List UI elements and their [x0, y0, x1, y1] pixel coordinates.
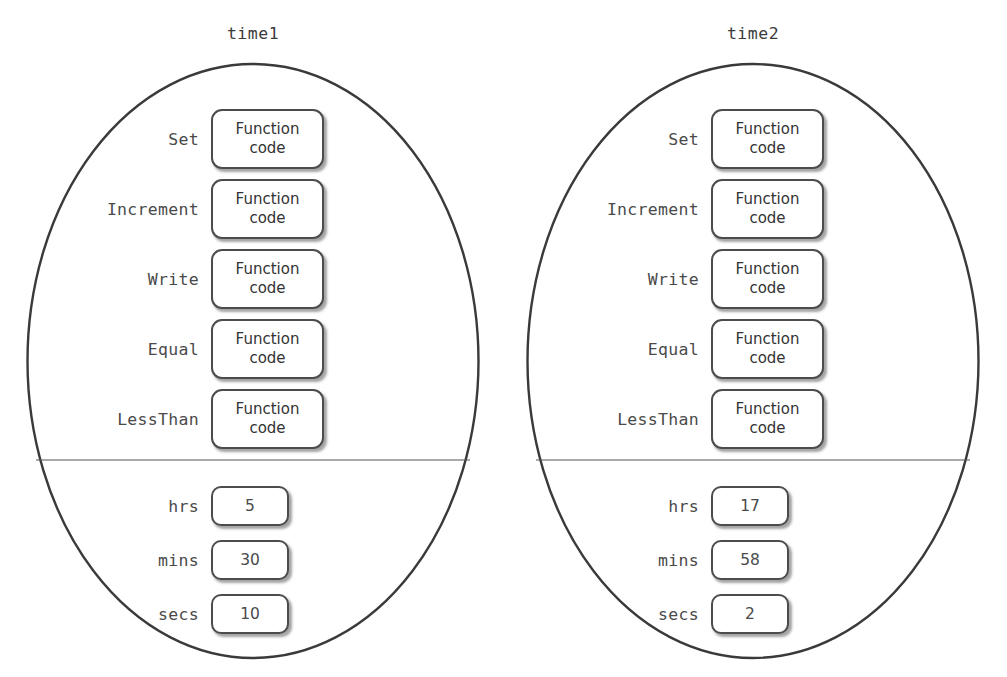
function-code-box[interactable]: Function code — [711, 179, 824, 239]
object-title-time1: time1 — [26, 24, 480, 43]
attribute-value-box[interactable]: 5 — [211, 486, 289, 526]
method-row: Equal Function code — [26, 314, 480, 384]
method-label: Equal — [26, 340, 211, 359]
method-row: Write Function code — [26, 244, 480, 314]
function-code-line2: code — [749, 209, 785, 228]
attributes-compartment-time1: hrs 5 mins 30 secs 10 — [26, 479, 480, 641]
function-code-box[interactable]: Function code — [211, 319, 324, 379]
function-code-line2: code — [749, 279, 785, 298]
function-code-line1: Function — [236, 400, 300, 419]
function-code-box[interactable]: Function code — [711, 319, 824, 379]
function-code-line1: Function — [736, 260, 800, 279]
object-time1: time1 Set Function code Increment Functi… — [26, 62, 480, 660]
diagram-canvas: time1 Set Function code Increment Functi… — [0, 0, 1007, 677]
attribute-row: mins 58 — [526, 533, 980, 587]
function-code-box[interactable]: Function code — [211, 109, 324, 169]
attribute-value-box[interactable]: 2 — [711, 594, 789, 634]
attribute-label: mins — [26, 551, 211, 570]
method-label: Equal — [526, 340, 711, 359]
method-label: Increment — [526, 200, 711, 219]
function-code-box[interactable]: Function code — [711, 249, 824, 309]
methods-compartment-time2: Set Function code Increment Function cod… — [526, 104, 980, 454]
function-code-line1: Function — [736, 120, 800, 139]
method-row: LessThan Function code — [526, 384, 980, 454]
attribute-row: secs 10 — [26, 587, 480, 641]
method-label: Write — [26, 270, 211, 289]
method-row: Set Function code — [526, 104, 980, 174]
function-code-line1: Function — [736, 330, 800, 349]
function-code-line1: Function — [236, 330, 300, 349]
attributes-compartment-time2: hrs 17 mins 58 secs 2 — [526, 479, 980, 641]
attribute-value-box[interactable]: 17 — [711, 486, 789, 526]
function-code-box[interactable]: Function code — [211, 389, 324, 449]
method-row: Write Function code — [526, 244, 980, 314]
method-row: Equal Function code — [526, 314, 980, 384]
function-code-box[interactable]: Function code — [211, 179, 324, 239]
attribute-label: hrs — [26, 497, 211, 516]
object-title-time2: time2 — [526, 24, 980, 43]
function-code-line2: code — [749, 349, 785, 368]
attribute-label: hrs — [526, 497, 711, 516]
function-code-line2: code — [749, 139, 785, 158]
methods-compartment-time1: Set Function code Increment Function cod… — [26, 104, 480, 454]
attribute-label: secs — [526, 605, 711, 624]
attribute-value-box[interactable]: 58 — [711, 540, 789, 580]
attribute-row: mins 30 — [26, 533, 480, 587]
method-label: Set — [26, 130, 211, 149]
function-code-line2: code — [249, 139, 285, 158]
attribute-value-box[interactable]: 10 — [211, 594, 289, 634]
function-code-line1: Function — [736, 190, 800, 209]
method-row: Set Function code — [26, 104, 480, 174]
function-code-line2: code — [249, 279, 285, 298]
function-code-line2: code — [249, 349, 285, 368]
attribute-value-box[interactable]: 30 — [211, 540, 289, 580]
function-code-line2: code — [749, 419, 785, 438]
function-code-line1: Function — [236, 120, 300, 139]
attribute-label: secs — [26, 605, 211, 624]
function-code-line1: Function — [736, 400, 800, 419]
method-row: LessThan Function code — [26, 384, 480, 454]
function-code-line2: code — [249, 209, 285, 228]
attribute-row: hrs 5 — [26, 479, 480, 533]
method-label: Set — [526, 130, 711, 149]
function-code-box[interactable]: Function code — [711, 389, 824, 449]
function-code-box[interactable]: Function code — [711, 109, 824, 169]
attribute-row: hrs 17 — [526, 479, 980, 533]
method-label: LessThan — [26, 410, 211, 429]
function-code-line2: code — [249, 419, 285, 438]
attribute-row: secs 2 — [526, 587, 980, 641]
method-label: Write — [526, 270, 711, 289]
object-time2: time2 Set Function code Increment Functi… — [526, 62, 980, 660]
attribute-label: mins — [526, 551, 711, 570]
function-code-box[interactable]: Function code — [211, 249, 324, 309]
method-row: Increment Function code — [526, 174, 980, 244]
method-label: Increment — [26, 200, 211, 219]
function-code-line1: Function — [236, 190, 300, 209]
method-row: Increment Function code — [26, 174, 480, 244]
method-label: LessThan — [526, 410, 711, 429]
function-code-line1: Function — [236, 260, 300, 279]
